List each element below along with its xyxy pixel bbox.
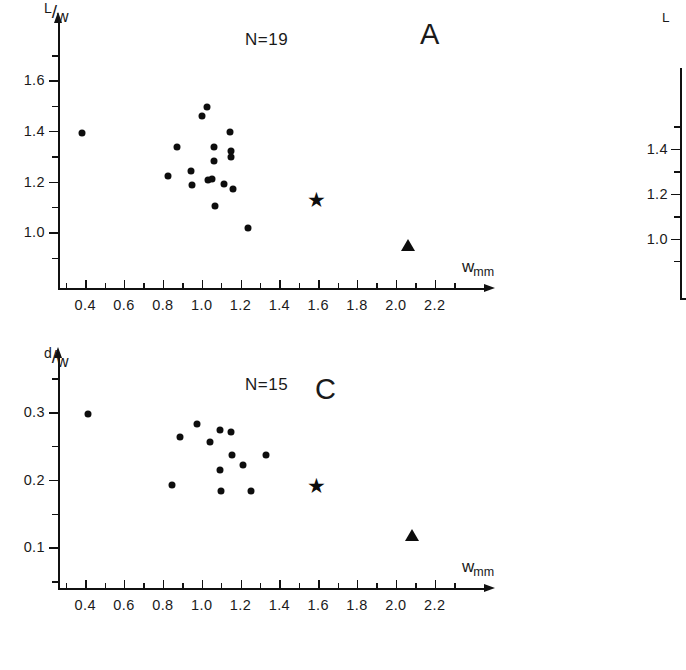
x-minor-tick	[260, 583, 261, 588]
x-minor-tick	[338, 283, 339, 288]
data-point	[229, 452, 236, 459]
x-tick-label: 1.2	[230, 297, 251, 313]
x-axis-line	[58, 588, 484, 590]
data-point	[209, 175, 216, 182]
panel-b-clipped: 1.01.21.4L	[600, 0, 686, 335]
data-point	[174, 144, 181, 151]
y-minor-tick	[674, 171, 680, 172]
x-minor-tick	[66, 583, 67, 588]
y-minor-tick	[52, 446, 58, 447]
y-minor-tick	[52, 258, 58, 259]
data-point	[193, 421, 200, 428]
x-axis-line	[680, 298, 686, 300]
x-major-tick	[163, 580, 164, 588]
x-minor-tick	[376, 583, 377, 588]
x-tick-label: 1.0	[191, 297, 212, 313]
x-tick-label: 0.4	[74, 597, 95, 613]
x-major-tick	[241, 580, 242, 588]
x-tick-label: 0.8	[152, 297, 173, 313]
data-point-star: ★	[307, 188, 326, 209]
y-major-tick	[49, 412, 58, 413]
y-minor-tick	[52, 55, 58, 56]
y-tick-label: 1.2	[5, 174, 45, 190]
x-minor-tick	[415, 583, 416, 588]
x-major-tick	[435, 580, 436, 588]
data-point	[164, 173, 171, 180]
y-minor-tick	[674, 216, 680, 217]
x-tick-label: 2.2	[424, 297, 445, 313]
data-point	[198, 113, 205, 120]
data-point	[216, 426, 223, 433]
x-axis-title: wmm	[462, 258, 495, 275]
x-major-tick	[202, 580, 203, 588]
x-tick-label: 1.6	[308, 597, 329, 613]
x-tick-label: 2.0	[385, 297, 406, 313]
data-point	[217, 466, 224, 473]
x-major-tick	[435, 280, 436, 288]
y-axis-title-denominator: w	[57, 353, 69, 370]
x-tick-label: 2.0	[385, 597, 406, 613]
y-minor-tick	[674, 126, 680, 127]
x-minor-tick	[143, 583, 144, 588]
data-point	[188, 168, 195, 175]
x-minor-tick	[299, 283, 300, 288]
y-axis-title-denominator: w	[57, 8, 69, 25]
y-minor-tick	[52, 514, 58, 515]
x-tick-label: 1.8	[346, 597, 367, 613]
y-major-tick	[49, 131, 58, 132]
x-minor-tick	[182, 283, 183, 288]
y-minor-tick	[674, 261, 680, 262]
data-point	[177, 433, 184, 440]
x-tick-label: 2.2	[424, 597, 445, 613]
y-tick-label: 0.2	[5, 472, 45, 488]
x-minor-tick	[105, 583, 106, 588]
data-point	[226, 128, 233, 135]
data-point	[211, 143, 218, 150]
data-point	[221, 180, 228, 187]
x-tick-label: 1.8	[346, 297, 367, 313]
panel-letter: C	[315, 373, 336, 406]
data-point	[203, 103, 210, 110]
data-point-star: ★	[307, 474, 326, 495]
x-major-tick	[279, 580, 280, 588]
data-point	[244, 224, 251, 231]
data-point	[212, 203, 219, 210]
x-tick-label: 1.4	[269, 597, 290, 613]
x-major-tick	[85, 280, 86, 288]
y-tick-label: 1.0	[628, 231, 668, 247]
x-tick-label: 0.4	[74, 297, 95, 313]
x-tick-label: 1.6	[308, 297, 329, 313]
data-point	[229, 185, 236, 192]
y-tick-label: 1.4	[5, 123, 45, 139]
data-point-triangle	[405, 529, 419, 541]
y-minor-tick	[52, 156, 58, 157]
x-minor-tick	[143, 283, 144, 288]
data-point	[228, 428, 235, 435]
y-minor-tick	[52, 207, 58, 208]
x-major-tick	[241, 280, 242, 288]
x-axis-arrow	[484, 284, 495, 292]
data-point	[239, 461, 246, 468]
x-major-tick	[357, 280, 358, 288]
x-minor-tick	[105, 283, 106, 288]
y-major-tick	[49, 480, 58, 481]
x-major-tick	[124, 580, 125, 588]
y-major-tick	[671, 149, 680, 150]
x-axis-line	[58, 288, 484, 290]
x-major-tick	[163, 280, 164, 288]
x-major-tick	[124, 280, 125, 288]
figure-root: 0.40.60.81.01.21.41.61.82.02.21.01.21.41…	[0, 0, 686, 670]
data-point	[211, 157, 218, 164]
x-minor-tick	[182, 583, 183, 588]
x-major-tick	[202, 280, 203, 288]
x-major-tick	[279, 280, 280, 288]
y-major-tick	[671, 194, 680, 195]
y-tick-label: 0.1	[5, 539, 45, 555]
y-axis-title: L	[662, 10, 670, 25]
y-axis-line	[58, 22, 60, 288]
x-tick-label: 1.0	[191, 597, 212, 613]
y-axis-line	[680, 68, 682, 298]
data-point	[228, 147, 235, 154]
data-point	[79, 130, 86, 137]
x-minor-tick	[66, 283, 67, 288]
